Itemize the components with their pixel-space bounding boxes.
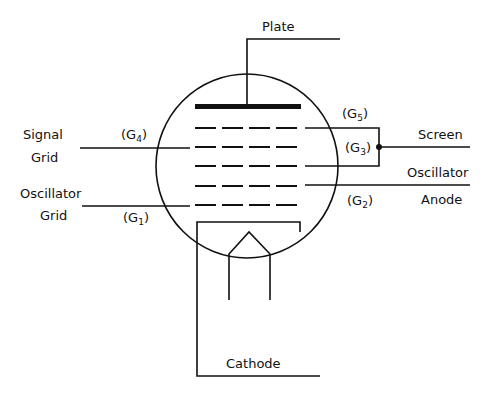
grid-dashes [195,128,301,205]
cathode-label: Cathode [226,356,281,371]
oscillator-grid-label-line2: Grid [40,208,67,223]
signal-grid-label-line1: Signal [23,127,63,142]
signal-grid-label-line2: Grid [31,150,58,165]
oscillator-anode-label-line2: Anode [421,192,462,207]
oscillator-grid-label-line1: Oscillator [20,186,82,201]
oscillator-anode-label-line1: Oscillator [407,165,469,180]
g2-label: (G2) [347,193,373,210]
plate-label: Plate [262,19,295,34]
screen-label: Screen [418,127,463,142]
plate-electrode [195,39,340,109]
g4-label: (G4) [121,127,147,144]
g5-label: (G5) [342,106,368,123]
pentagrid-tube-diagram: Plate Cathode Signal Grid Oscillator Gri… [0,0,491,394]
g3-label: (G3) [345,140,371,157]
cathode-electrode [197,222,320,376]
g1-label: (G1) [123,210,149,227]
heater-filament [229,232,270,300]
